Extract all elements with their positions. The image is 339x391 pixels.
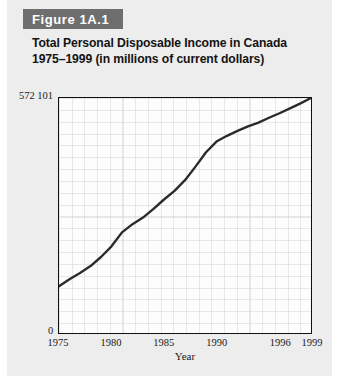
plot-frame bbox=[58, 97, 312, 334]
x-axis-tick-1975: 1975 bbox=[48, 337, 69, 348]
x-axis-title: Year bbox=[58, 350, 312, 362]
x-axis-tick-1990: 1990 bbox=[206, 337, 227, 348]
series-line-canvas bbox=[59, 98, 311, 333]
x-axis-tick-1985: 1985 bbox=[153, 337, 174, 348]
chart-plot: 572 101 0 Total personal disposable inco… bbox=[7, 0, 332, 376]
x-axis-tick-1996: 1996 bbox=[270, 337, 291, 348]
x-axis-tick-1999: 1999 bbox=[302, 337, 323, 348]
y-axis-max-label: 572 101 bbox=[19, 90, 53, 101]
y-axis-zero-label: 0 bbox=[48, 325, 53, 336]
series-line-total-personal-disposable-income bbox=[59, 98, 311, 286]
figure-card: Figure 1A.1 Total Personal Disposable In… bbox=[7, 0, 332, 376]
x-axis-tick-1980: 1980 bbox=[100, 337, 121, 348]
